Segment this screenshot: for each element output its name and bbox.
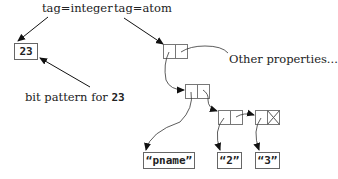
pname-string-box: “pname” (143, 152, 195, 169)
arrow-tag-atom (124, 18, 163, 44)
arrow-tag-integer (18, 17, 48, 41)
cons-cell-plist-2 (219, 111, 243, 125)
other-properties-label: Other properties... (229, 54, 338, 66)
cons-cell-plist-3 (256, 111, 280, 125)
tag-integer-label: tag=integer (42, 3, 113, 15)
tag-atom-label: tag=atom (114, 3, 172, 15)
bit-pattern-value: 23 (111, 91, 124, 104)
arrow-bit-pattern (40, 58, 90, 87)
integer-value-box: 23 (14, 43, 38, 60)
cons-cell-plist-1 (186, 85, 210, 99)
bit-pattern-label: bit pattern for 23 (25, 92, 125, 104)
arrow-other-properties (181, 46, 228, 53)
string-3-box: “3” (255, 152, 280, 169)
arrow-plist-to-pname (146, 92, 192, 150)
bit-pattern-text: bit pattern for (25, 90, 111, 104)
string-2-box: “2” (217, 152, 242, 169)
